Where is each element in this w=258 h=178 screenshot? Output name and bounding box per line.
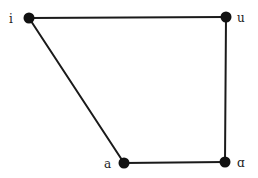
edges (29, 17, 226, 163)
edge-u-alpha (225, 17, 226, 162)
nodes (24, 12, 232, 169)
edge-i-u (29, 17, 226, 18)
label-i: i (9, 12, 13, 26)
label-alpha: ɑ (237, 156, 245, 170)
node-alpha (220, 157, 231, 168)
label-u: u (237, 11, 245, 25)
edge-a-i (29, 18, 124, 163)
edge-alpha-a (124, 162, 225, 163)
label-a: a (104, 157, 111, 171)
node-u (221, 12, 232, 23)
node-a (119, 158, 130, 169)
vowel-quadrilateral-diagram: i u a ɑ (0, 0, 258, 178)
labels: i u a ɑ (9, 11, 245, 171)
node-i (24, 13, 35, 24)
